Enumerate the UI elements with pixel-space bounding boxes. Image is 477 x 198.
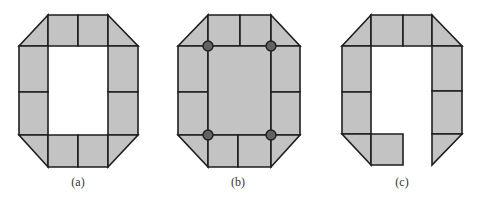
figure-a-tile <box>108 92 138 135</box>
figure-c-tile <box>342 92 371 134</box>
figure-b-caption: (b) <box>231 175 245 189</box>
figure-c-tile <box>403 15 432 46</box>
figure-a-tile <box>48 15 78 46</box>
figure-b-tile <box>238 135 271 167</box>
figure-a-tile <box>19 92 48 135</box>
vertex-node-icon <box>266 130 276 140</box>
figure-b-tile <box>271 92 300 135</box>
figure-b-tile <box>208 15 240 46</box>
figure-a-tile <box>48 135 78 167</box>
figure-a-tile <box>78 15 108 46</box>
figure-b-tile <box>208 135 238 167</box>
figure-c-tile <box>371 15 403 46</box>
figure-a-tile <box>108 46 138 92</box>
figure-c-tile <box>432 46 462 91</box>
figure-c-tile <box>342 46 371 92</box>
figure-a-caption: (a) <box>71 175 84 189</box>
figure-a-tile <box>19 46 48 92</box>
figure-c-tile <box>371 134 403 165</box>
figure-b-tile <box>178 46 208 92</box>
figure-b-tile <box>271 46 300 92</box>
figure-c-tile <box>432 91 462 134</box>
figure-b-tiles <box>178 15 300 167</box>
vertex-node-icon <box>203 130 213 140</box>
figure-a-tile <box>78 135 108 167</box>
figure-b-tile <box>240 15 271 46</box>
figure-c-caption: (c) <box>395 175 408 189</box>
figure-b-tile <box>178 92 208 135</box>
vertex-node-icon <box>203 41 213 51</box>
tiling-diagram: (a) (b) (c) <box>0 0 477 198</box>
vertex-node-icon <box>266 41 276 51</box>
figure-b-tile <box>208 46 271 135</box>
